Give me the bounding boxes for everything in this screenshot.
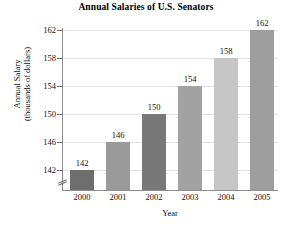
bar-value-label: 154 (173, 75, 207, 84)
x-axis-tick-label: 2002 (134, 193, 174, 202)
bar[interactable] (214, 58, 238, 190)
y-axis-tick (57, 170, 63, 171)
gridline (62, 114, 278, 115)
bar-value-label: 146 (101, 131, 135, 140)
y-axis-tick (57, 86, 63, 87)
y-axis-tick-label: 142 (12, 166, 56, 175)
x-axis-title: Year (62, 208, 278, 218)
y-axis-title-line1: Annual Salary (12, 8, 22, 160)
y-axis-title: Annual Salary(thousands of dollars) (12, 8, 32, 160)
bar-value-label: 158 (209, 47, 243, 56)
gridline (62, 30, 278, 31)
y-axis-tick (57, 58, 63, 59)
bar-value-label: 142 (65, 159, 99, 168)
x-axis-tick-label: 2003 (170, 193, 210, 202)
x-axis-line (62, 190, 278, 191)
bar[interactable] (70, 170, 94, 190)
bar[interactable] (178, 86, 202, 190)
bar[interactable] (250, 30, 274, 190)
y-axis-tick (57, 142, 63, 143)
bar-value-label: 150 (137, 103, 171, 112)
x-axis-tick-label: 2000 (62, 193, 102, 202)
x-axis-tick-label: 2001 (98, 193, 138, 202)
gridline (62, 170, 278, 171)
bar[interactable] (142, 114, 166, 190)
gridline (62, 58, 278, 59)
y-axis-tick (57, 114, 63, 115)
bar-chart: Annual Salaries of U.S. Senators 1421461… (0, 0, 292, 226)
y-axis-title-line2: (thousands of dollars) (22, 8, 32, 160)
gridline (62, 86, 278, 87)
y-axis-tick (57, 30, 63, 31)
bar[interactable] (106, 142, 130, 190)
bar-value-label: 162 (245, 19, 279, 28)
plot-area: 142146150154158162 (62, 28, 278, 190)
gridline (62, 142, 278, 143)
x-axis-tick-label: 2005 (242, 193, 282, 202)
x-axis-tick-label: 2004 (206, 193, 246, 202)
